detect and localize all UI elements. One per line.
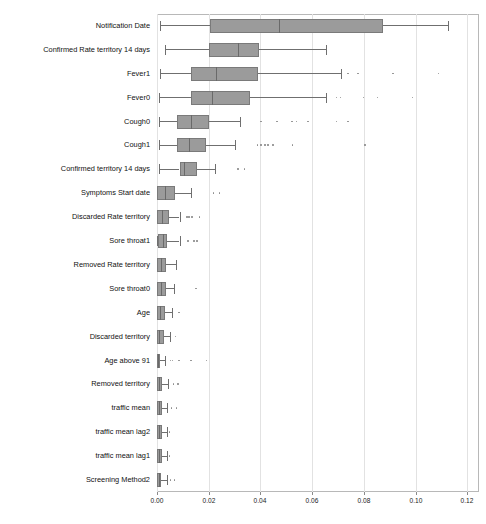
- outlier-point: [169, 431, 171, 433]
- category-label: traffic mean lag1: [95, 451, 150, 460]
- median-line: [184, 162, 185, 176]
- x-tick-mark: [209, 492, 210, 495]
- cap-high: [326, 93, 327, 103]
- box-iqr: [180, 162, 198, 176]
- outlier-point: [412, 97, 414, 99]
- cap-low: [159, 140, 160, 150]
- outlier-point: [272, 144, 274, 146]
- category-label: Symptoms Start date: [81, 188, 150, 197]
- whisker-high: [259, 49, 325, 50]
- median-line: [159, 449, 160, 463]
- median-line: [158, 354, 159, 368]
- median-line: [161, 258, 162, 272]
- category-label: Discarded Rate territory: [72, 212, 150, 221]
- cap-high: [448, 21, 449, 31]
- whisker-low: [160, 73, 191, 74]
- x-tick-label: 0.08: [358, 497, 371, 504]
- cap-low: [159, 117, 160, 127]
- category-label: Fever0: [127, 93, 150, 102]
- x-tick-label: 0.04: [254, 497, 267, 504]
- gridline: [260, 14, 261, 492]
- outlier-point: [187, 240, 189, 242]
- outlier-point: [336, 121, 338, 123]
- whisker-high: [250, 97, 326, 98]
- gridline: [209, 14, 210, 492]
- cap-high: [172, 308, 173, 318]
- median-line: [165, 186, 166, 200]
- whisker-high: [166, 288, 174, 289]
- category-label: Age above 91: [104, 356, 150, 365]
- x-tick-mark: [157, 492, 158, 495]
- cap-high: [167, 475, 168, 485]
- outlier-point: [177, 383, 179, 385]
- outlier-point: [392, 73, 394, 75]
- outlier-point: [178, 360, 180, 362]
- outlier-point: [291, 121, 293, 123]
- plot-area: [157, 14, 479, 492]
- box-plot-item: [0, 18, 486, 34]
- outlier-point: [213, 192, 215, 194]
- cap-high: [191, 188, 192, 198]
- whisker-low: [159, 97, 191, 98]
- box-plot-item: [0, 137, 486, 153]
- whisker-low: [165, 49, 209, 50]
- median-line: [159, 425, 160, 439]
- box-iqr: [157, 186, 175, 200]
- cap-high: [235, 140, 236, 150]
- outlier-point: [178, 312, 180, 314]
- box-plot-item: [0, 185, 486, 201]
- box-iqr: [157, 306, 165, 320]
- x-tick-label: 0.10: [410, 497, 423, 504]
- outlier-point: [173, 383, 175, 385]
- category-label: Confirmed territory 14 days: [61, 164, 150, 173]
- whisker-low: [159, 145, 177, 146]
- cap-low: [159, 93, 160, 103]
- cap-high: [180, 212, 181, 222]
- whisker-low: [159, 169, 179, 170]
- box-plot-item: [0, 424, 486, 440]
- outlier-point: [264, 144, 266, 146]
- category-label: Fever1: [127, 69, 150, 78]
- median-line: [159, 330, 160, 344]
- outlier-point: [364, 144, 366, 146]
- outlier-point: [196, 240, 198, 242]
- outlier-point: [260, 144, 262, 146]
- category-label: Removed territory: [91, 379, 150, 388]
- outlier-point: [296, 121, 298, 123]
- median-line: [191, 115, 192, 129]
- box-iqr: [177, 115, 208, 129]
- outlier-point: [357, 73, 359, 75]
- x-tick-label: 0.06: [306, 497, 319, 504]
- x-tick-mark: [416, 492, 417, 495]
- box-plot-item: [0, 376, 486, 392]
- gridline: [312, 14, 313, 492]
- outlier-point: [377, 97, 379, 99]
- category-label: Sore throat0: [109, 284, 150, 293]
- gridline: [416, 14, 417, 492]
- cap-low: [165, 45, 166, 55]
- outlier-point: [307, 121, 309, 123]
- box-plot-item: [0, 448, 486, 464]
- outlier-point: [347, 73, 349, 75]
- outlier-point: [195, 288, 197, 290]
- median-line: [162, 210, 163, 224]
- whisker-high: [206, 145, 235, 146]
- outlier-point: [191, 216, 193, 218]
- boxplot-figure: Notification DateConfirmed Rate territor…: [0, 0, 486, 524]
- whisker-high: [166, 264, 176, 265]
- box-plot-item: [0, 305, 486, 321]
- box-iqr: [191, 67, 257, 81]
- whisker-high: [167, 241, 180, 242]
- median-line: [216, 67, 217, 81]
- box-plot-item: [0, 114, 486, 130]
- cap-high: [167, 427, 168, 437]
- outlier-point: [237, 168, 239, 170]
- outlier-point: [206, 360, 208, 362]
- box-plot-item: [0, 281, 486, 297]
- x-tick-label: 0.00: [151, 497, 164, 504]
- outlier-point: [244, 168, 246, 170]
- cap-high: [165, 356, 166, 366]
- x-tick-mark: [364, 492, 365, 495]
- category-label: Confirmed Rate territory 14 days: [43, 45, 150, 54]
- whisker-low: [159, 121, 177, 122]
